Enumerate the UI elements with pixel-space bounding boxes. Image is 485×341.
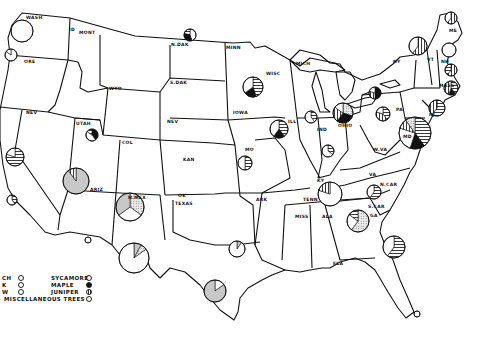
pie-chart-pennsylvania — [376, 107, 390, 121]
state-label-wyo: WYO — [109, 87, 122, 92]
state-label-ore: ORE — [24, 60, 35, 65]
state-label-pa: PA — [396, 108, 403, 113]
state-label-utah: UTAH — [76, 122, 91, 127]
pie-chart-indiana — [322, 145, 334, 157]
pie-chart-ohio — [333, 103, 353, 123]
pie-chart-west-texas — [119, 243, 149, 273]
state-label-md: MD — [403, 135, 412, 140]
pie-chart-south-florida — [414, 311, 420, 317]
state-label-nj: NJ — [429, 113, 435, 118]
state-label-ala: ALA — [322, 215, 333, 220]
state-label-okla: OK — [178, 194, 186, 199]
state-label-fla: FLA — [333, 262, 343, 267]
pie-chart-new-mexico-small — [85, 237, 91, 243]
sycamore-swatch-icon — [86, 275, 92, 281]
state-label-ga: GA — [370, 214, 378, 219]
pie-chart-utah — [86, 129, 98, 141]
pie-chart-north-carolina — [367, 185, 381, 199]
state-label-id: ID — [69, 28, 75, 33]
state-label-me: ME — [449, 29, 457, 34]
pie-slice-misc — [238, 156, 245, 170]
pie-chart-arizona — [63, 168, 89, 194]
pie-chart-minnesota — [184, 29, 196, 41]
state-label-kan: KAN — [183, 158, 195, 163]
legend-item-sycamore: SYCAMORE — [51, 276, 88, 282]
state-label-minn: MINN — [226, 46, 241, 51]
pie-chart-oregon — [5, 49, 17, 61]
state-label-nh: NH — [441, 60, 449, 65]
state-label-va: VA — [369, 173, 376, 178]
pie-chart-layer — [5, 12, 458, 317]
state-label-miss: MISS — [295, 215, 309, 220]
legend-item-ch: CH — [2, 276, 11, 282]
legend-item-w: W — [2, 290, 8, 296]
pie-chart-massachusetts — [445, 64, 457, 76]
misc-trees-swatch-icon — [86, 296, 92, 302]
pie-chart-west-virginia — [399, 117, 431, 149]
maple-swatch-icon — [86, 282, 92, 288]
legend-item-k: K — [2, 283, 7, 289]
state-label-sdak: S.DAK — [170, 81, 187, 86]
pie-chart-florida — [383, 236, 405, 258]
open-circle-swatch-icon — [18, 289, 24, 295]
state-label-texas: TEXAS — [175, 202, 193, 207]
legend-item-miscellaneous-trees: MISCELLANEOUS TREES — [4, 297, 85, 303]
pie-chart-new-york — [409, 37, 427, 55]
pie-chart-washington — [11, 20, 33, 42]
state-label-ncar: N.CAR — [380, 183, 397, 188]
state-label-ariz: ARIZ — [90, 188, 103, 193]
state-label-iowa: IOWA — [233, 111, 248, 116]
state-label-nebr: NEV — [167, 120, 178, 125]
state-label-mass: MASS — [439, 84, 454, 89]
state-label-ndak: N.DAK — [171, 43, 189, 48]
hatch-vertical-swatch-icon — [18, 275, 24, 281]
pie-chart-nevada — [6, 148, 24, 166]
pie-chart-missouri — [238, 156, 252, 170]
state-label-mo: MO — [245, 148, 254, 153]
pie-chart-georgia — [347, 210, 369, 232]
state-label-wash: WASH — [26, 16, 42, 21]
hatch-horizontal-swatch-icon — [18, 282, 24, 288]
pie-chart-illinois — [305, 111, 317, 123]
pie-chart-iowa — [270, 120, 288, 138]
pie-chart-kentucky — [318, 182, 342, 206]
state-label-ind: IND — [317, 128, 327, 133]
state-label-ky: KY — [317, 179, 324, 184]
state-label-col: COL — [122, 141, 133, 146]
legend: CH K W SYCAMORE MAPLE JUNIPER MISCELLANE… — [0, 276, 110, 316]
pie-chart-maine — [445, 12, 457, 24]
state-label-mich: MICH — [296, 62, 310, 67]
pie-slice-solid-black — [375, 87, 381, 99]
pie-chart-new-hampshire — [442, 43, 456, 57]
state-label-ill: ILL — [288, 120, 296, 125]
state-label-ark: ARK — [256, 198, 267, 203]
state-label-wisc: WISC — [266, 72, 280, 77]
pie-chart-wisconsin — [243, 77, 263, 97]
pie-chart-michigan — [369, 87, 381, 99]
state-label-tenn: TENN — [303, 198, 318, 203]
state-label-scar: S.CAR — [368, 205, 385, 210]
state-label-vt: VT — [427, 58, 434, 63]
pie-chart-central-texas — [204, 280, 226, 302]
state-label-ny: NY — [393, 60, 401, 65]
state-label-ohio: OHIO — [338, 124, 352, 129]
legend-item-juniper: JUNIPER — [51, 290, 79, 296]
pie-slice-hatch-h — [245, 156, 252, 170]
state-label-nmex: N.MEX — [128, 196, 146, 201]
legend-item-maple: MAPLE — [51, 283, 74, 289]
juniper-swatch-icon — [86, 289, 92, 295]
state-label-nev: NEV — [26, 111, 37, 116]
state-label-wva: W.VA — [373, 148, 387, 153]
pie-chart-north-texas — [229, 241, 245, 257]
pie-chart-california — [7, 195, 17, 205]
state-label-mont: MONT — [79, 31, 95, 36]
